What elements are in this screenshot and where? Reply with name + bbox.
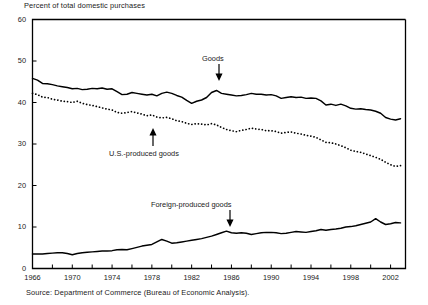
y-axis-tick-label: 30 bbox=[4, 139, 26, 148]
x-axis-tick-label: 2002 bbox=[371, 273, 411, 282]
y-axis-tick-label: 10 bbox=[4, 222, 26, 231]
annotation-goods: Goods bbox=[202, 54, 224, 63]
x-axis-tick-label: 1990 bbox=[251, 273, 291, 282]
series-u-s-produced-goods bbox=[33, 93, 401, 166]
annotation-us-produced-goods: U.S.-produced goods bbox=[109, 149, 179, 158]
arrow-foreign-produced-goods-head bbox=[227, 220, 232, 226]
arrow-us-produced-goods-head bbox=[150, 130, 155, 136]
chart-figure: Percent of total domestic purchases 0102… bbox=[0, 0, 428, 305]
x-axis-tick-label: 1974 bbox=[92, 273, 132, 282]
chart-canvas bbox=[0, 0, 428, 305]
y-axis-tick-label: 50 bbox=[4, 56, 26, 65]
annotation-foreign-produced-goods: Foreign-produced goods bbox=[151, 200, 232, 209]
y-axis-tick-label: 60 bbox=[4, 15, 26, 24]
x-axis-tick-label: 1978 bbox=[132, 273, 172, 282]
x-axis-tick-label: 1986 bbox=[211, 273, 251, 282]
series-goods bbox=[33, 78, 401, 120]
x-axis-tick-label: 1982 bbox=[172, 273, 212, 282]
y-axis-tick-label: 20 bbox=[4, 181, 26, 190]
source-note: Source: Department of Commerce (Bureau o… bbox=[26, 288, 249, 297]
y-axis-tick-label: 40 bbox=[4, 98, 26, 107]
x-axis-tick-label: 1994 bbox=[291, 273, 331, 282]
x-axis-tick-label: 1966 bbox=[13, 273, 53, 282]
series-foreign-produced-goods bbox=[33, 219, 401, 255]
y-axis-tick-label: 0 bbox=[4, 264, 26, 273]
x-axis-tick-label: 1970 bbox=[52, 273, 92, 282]
x-axis-tick-label: 1998 bbox=[331, 273, 371, 282]
arrow-goods-head bbox=[216, 74, 221, 80]
